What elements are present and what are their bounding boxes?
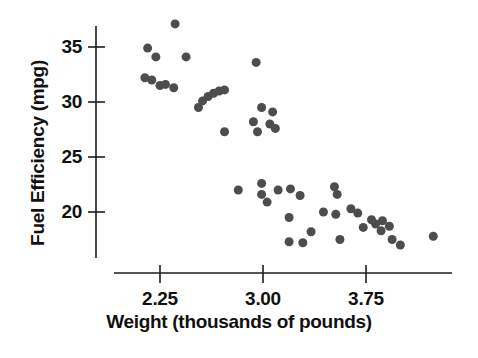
data-point [377, 226, 386, 235]
data-point [151, 52, 160, 61]
data-point [298, 238, 307, 247]
data-point [161, 80, 170, 89]
data-point [396, 241, 405, 250]
data-point [333, 190, 342, 199]
y-tick-label: 30 [61, 91, 82, 113]
x-tick-label: 2.25 [142, 288, 178, 310]
x-tick-label: 3.00 [245, 288, 281, 310]
data-point [307, 227, 316, 236]
axes-group [96, 26, 452, 273]
data-point [220, 85, 229, 94]
data-point [169, 83, 178, 92]
scatter-plot-figure: 20253035 2.253.003.75 Weight (thousands … [0, 0, 478, 358]
data-point [147, 76, 156, 85]
data-point [319, 208, 328, 217]
y-axis-title: Fuel Efficiency (mpg) [27, 53, 49, 253]
data-point [285, 237, 294, 246]
data-point [296, 191, 305, 200]
data-point [429, 232, 438, 241]
data-point [194, 103, 203, 112]
x-tick-marks [160, 265, 366, 283]
data-point [143, 44, 152, 53]
data-point [257, 103, 266, 112]
data-point [263, 198, 272, 207]
data-point [257, 179, 266, 188]
data-point [359, 223, 368, 232]
data-point [331, 210, 340, 219]
y-tick-label: 25 [61, 146, 82, 168]
y-tick-label: 20 [61, 201, 82, 223]
data-point [271, 124, 280, 133]
data-point [353, 209, 362, 218]
data-point [286, 184, 295, 193]
data-point [285, 213, 294, 222]
data-point [385, 222, 394, 231]
data-point [220, 127, 229, 136]
data-point [335, 235, 344, 244]
data-point [330, 182, 339, 191]
data-point [257, 190, 266, 199]
data-point [182, 52, 191, 61]
data-point [171, 19, 180, 28]
data-point [234, 186, 243, 195]
data-point [388, 235, 397, 244]
data-point [253, 127, 262, 136]
x-tick-label: 3.75 [348, 288, 384, 310]
data-point [252, 58, 261, 67]
data-points-group [140, 19, 437, 249]
data-point [274, 186, 283, 195]
data-point [249, 117, 258, 126]
data-point [268, 107, 277, 116]
x-axis-title: Weight (thousands of pounds) [106, 311, 372, 333]
y-tick-label: 35 [61, 36, 82, 58]
